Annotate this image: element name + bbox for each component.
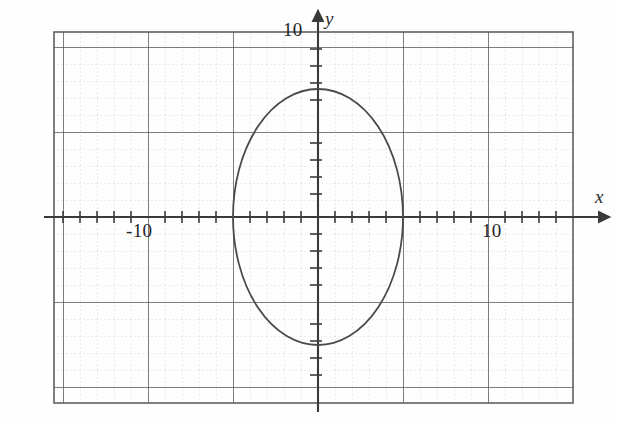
coordinate-plane-svg — [0, 0, 618, 423]
x-axis-label: x — [595, 186, 603, 208]
x-tick-label-negative-10: -10 — [126, 220, 152, 242]
y-tick-label-10: 10 — [283, 19, 303, 41]
y-axis-label: y — [325, 8, 333, 30]
graph-figure: y x 10 -10 10 — [0, 0, 618, 423]
x-tick-label-10: 10 — [482, 220, 502, 242]
